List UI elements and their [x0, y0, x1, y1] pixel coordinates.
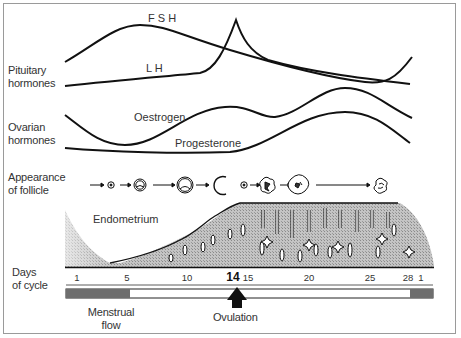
label-menstrual-flow: Menstrual flow	[76, 306, 146, 332]
label-ovarian: Ovarian hormones	[8, 121, 55, 147]
day-tick: 1	[74, 272, 79, 283]
label-days: Days of cycle	[12, 266, 48, 292]
label-lh: L H	[146, 62, 163, 74]
day-tick: 5	[124, 272, 129, 283]
day-tick: 20	[304, 272, 315, 283]
label-progesterone: Progesterone	[175, 137, 241, 149]
endometrium-layer	[65, 200, 434, 268]
day-tick: 10	[182, 272, 193, 283]
day-tick: 28	[403, 272, 414, 283]
fsh-curve	[65, 25, 412, 82]
label-ovulation: Ovulation	[213, 311, 258, 324]
day-tick: 25	[365, 272, 376, 283]
follicle-sequence	[90, 175, 387, 195]
label-follicle: Appearance of follicle	[8, 171, 65, 197]
menses-bar-start	[66, 289, 130, 298]
label-endometrium: Endometrium	[93, 213, 158, 225]
label-oestrogen: Oestrogen	[134, 111, 185, 123]
menstrual-cycle-diagram	[0, 0, 461, 338]
day-tick: 1	[418, 272, 423, 283]
menses-bar-end	[410, 289, 433, 298]
label-pituitary: Pituitary hormones	[8, 64, 55, 90]
day-axis	[66, 285, 433, 308]
frame-border	[4, 4, 456, 334]
label-fsh: F S H	[148, 12, 176, 24]
day-tick-ovulation: 14	[226, 270, 239, 284]
day-tick: 15	[243, 272, 254, 283]
